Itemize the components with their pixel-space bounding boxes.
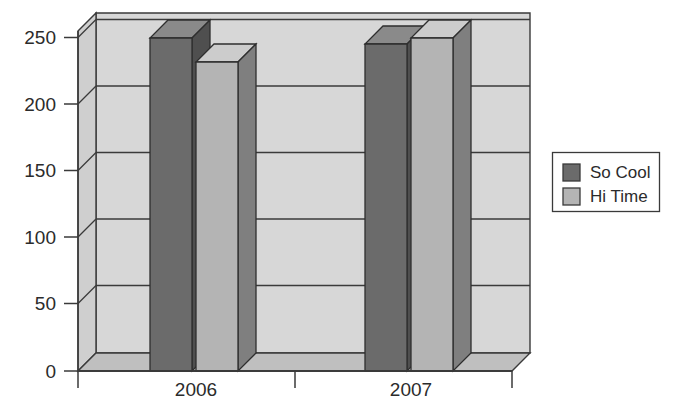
- y-tick-label-0: 0: [45, 361, 56, 382]
- y-axis: [64, 31, 78, 371]
- y-tick-label-50: 50: [35, 293, 56, 314]
- x-tick-label-2007: 2007: [390, 379, 432, 400]
- legend-swatch-hi-time: [563, 188, 580, 205]
- bar-front-face: [365, 44, 407, 371]
- legend-label-so-cool: So Cool: [590, 163, 650, 182]
- x-tick-labels: 2006 2007: [175, 379, 432, 400]
- plot-left-wall: [78, 13, 96, 371]
- y-tick-label-200: 200: [24, 94, 56, 115]
- bar-front-face: [196, 62, 238, 371]
- chart-legend: So Cool Hi Time: [553, 153, 660, 212]
- legend-swatch-so-cool: [563, 164, 580, 181]
- bar-chart-figure: 250 200 150 100 50 0 2006 2007 So Cool: [0, 0, 689, 416]
- y-tick-label-250: 250: [24, 27, 56, 48]
- bar-hi-time-2007: [411, 20, 471, 371]
- legend-item-hi-time[interactable]: Hi Time: [563, 187, 648, 206]
- x-tick-label-2006: 2006: [175, 379, 217, 400]
- y-tick-labels: 250 200 150 100 50 0: [24, 27, 56, 382]
- bar-front-face: [150, 38, 192, 371]
- bar-front-face: [411, 38, 453, 371]
- legend-label-hi-time: Hi Time: [590, 187, 648, 206]
- y-tick-label-100: 100: [24, 227, 56, 248]
- x-axis: [78, 371, 512, 388]
- bar-side-face: [453, 20, 471, 371]
- chart-canvas: 250 200 150 100 50 0 2006 2007 So Cool: [0, 0, 689, 416]
- bar-hi-time-2006: [196, 44, 256, 371]
- left-wall-panel: [78, 13, 96, 371]
- legend-item-so-cool[interactable]: So Cool: [563, 163, 650, 182]
- bar-side-face: [238, 44, 256, 371]
- y-tick-label-150: 150: [24, 160, 56, 181]
